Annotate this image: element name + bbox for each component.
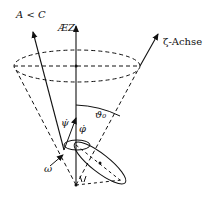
spin-ellipse: [64, 140, 90, 150]
label-psi-dot: ψ̇: [61, 118, 69, 128]
precession-cone-diagram: A < C ÆZ ζ-Achse ϑ₀ ψ̇ φ̇ ω: [0, 0, 208, 198]
body-center-dot: [99, 162, 102, 165]
label-omega: ω: [44, 164, 52, 174]
label-lz: ÆZ: [58, 23, 75, 33]
center-dot: [74, 64, 77, 67]
label-a-less-c: A < C: [16, 10, 46, 20]
label-theta0: ϑ₀: [95, 110, 106, 120]
apex-tick: [84, 176, 86, 182]
label-zeta-axis: ζ-Achse: [163, 37, 202, 47]
apex-tick: [80, 176, 82, 182]
apex-dot: [75, 184, 78, 187]
label-phi-dot: φ̇: [79, 124, 86, 134]
zeta-axis-arrow: [140, 34, 158, 66]
diagram-svg: [0, 0, 208, 198]
